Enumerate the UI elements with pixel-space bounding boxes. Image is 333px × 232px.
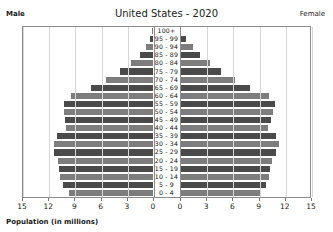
age-group-label: 30 - 34 <box>153 141 180 147</box>
pyramid-row: 0 - 4 <box>23 189 310 197</box>
pyramid-row: 15 - 19 <box>23 165 310 173</box>
pyramid-row: 75 - 79 <box>23 67 310 75</box>
x-tick-label: 6 <box>98 202 103 211</box>
gridline <box>207 27 208 197</box>
male-bar <box>63 182 153 188</box>
age-group-label: 75 - 79 <box>153 68 180 74</box>
male-bar <box>65 117 153 123</box>
pyramid-row: 60 - 64 <box>23 92 310 100</box>
age-group-label-cell: 70 - 74 <box>153 76 180 84</box>
male-bar <box>54 141 154 147</box>
gridline <box>23 27 24 197</box>
male-bar <box>69 190 153 196</box>
age-group-label: 5 - 9 <box>153 182 180 188</box>
male-bar <box>131 60 153 66</box>
female-bar <box>180 117 271 123</box>
female-bar <box>180 68 221 74</box>
pyramid-row: 45 - 49 <box>23 116 310 124</box>
male-bar <box>54 149 153 155</box>
age-group-label-cell: 25 - 29 <box>153 148 180 156</box>
x-tick-label: 0 <box>151 202 156 211</box>
male-bar <box>140 52 154 58</box>
gridline <box>128 27 129 197</box>
age-group-label: 20 - 24 <box>153 157 180 163</box>
x-tick-label: 3 <box>204 202 209 211</box>
gridline <box>286 27 287 197</box>
age-group-label: 100+ <box>153 28 180 34</box>
male-bar <box>64 101 153 107</box>
age-group-label-cell: 15 - 19 <box>153 165 180 173</box>
male-bar <box>106 77 154 83</box>
pyramid-row: 80 - 84 <box>23 59 310 67</box>
pyramid-row: 50 - 54 <box>23 108 310 116</box>
age-group-label-cell: 60 - 64 <box>153 92 180 100</box>
tick-mark <box>153 198 154 201</box>
plot-area: 100+95 - 9990 - 9485 - 8980 - 8475 - 797… <box>22 26 311 198</box>
tick-mark <box>232 198 233 201</box>
female-bar <box>180 141 279 147</box>
age-group-label: 85 - 89 <box>153 52 180 58</box>
female-bar <box>180 125 268 131</box>
female-bar <box>180 190 260 196</box>
tick-mark <box>259 198 260 201</box>
pyramid-row: 30 - 34 <box>23 140 310 148</box>
age-group-label: 60 - 64 <box>153 93 180 99</box>
x-tick-label: 9 <box>256 202 261 211</box>
tick-mark <box>48 198 49 201</box>
pyramid-row: 35 - 39 <box>23 132 310 140</box>
age-group-label: 40 - 44 <box>153 125 180 131</box>
pyramid-row: 40 - 44 <box>23 124 310 132</box>
female-bar <box>180 44 193 50</box>
age-group-label-cell: 90 - 94 <box>153 43 180 51</box>
tick-mark <box>180 198 181 201</box>
age-group-label: 15 - 19 <box>153 166 180 172</box>
pyramid-row: 70 - 74 <box>23 76 310 84</box>
age-group-label: 0 - 4 <box>153 190 180 196</box>
tick-mark <box>101 198 102 201</box>
x-tick-label: 15 <box>306 202 316 211</box>
gridline <box>233 27 234 197</box>
age-group-label-cell: 35 - 39 <box>153 132 180 140</box>
tick-mark <box>285 198 286 201</box>
age-group-label-cell: 40 - 44 <box>153 124 180 132</box>
pyramid-row: 90 - 94 <box>23 43 310 51</box>
x-tick-label: 12 <box>280 202 290 211</box>
age-group-label: 50 - 54 <box>153 109 180 115</box>
age-group-label-cell: 100+ <box>153 27 180 35</box>
female-bar <box>180 60 210 66</box>
female-bar <box>180 85 250 91</box>
male-bar <box>66 125 153 131</box>
age-group-label-cell: 0 - 4 <box>153 189 180 197</box>
male-bar <box>64 109 153 115</box>
x-tick-label: 6 <box>230 202 235 211</box>
age-group-label-cell: 75 - 79 <box>153 67 180 75</box>
pyramid-row: 25 - 29 <box>23 148 310 156</box>
pyramid-row: 65 - 69 <box>23 84 310 92</box>
age-group-label: 90 - 94 <box>153 44 180 50</box>
age-group-label: 80 - 84 <box>153 60 180 66</box>
female-bar <box>180 93 269 99</box>
pyramid-row: 85 - 89 <box>23 51 310 59</box>
age-group-label-cell: 65 - 69 <box>153 84 180 92</box>
male-bar <box>120 68 153 74</box>
tick-mark <box>74 198 75 201</box>
age-group-label-cell: 30 - 34 <box>153 140 180 148</box>
x-tick-label: 12 <box>43 202 53 211</box>
female-bar <box>180 174 270 180</box>
pyramid-row: 100+ <box>23 27 310 35</box>
age-group-label: 65 - 69 <box>153 85 180 91</box>
age-group-label-cell: 10 - 14 <box>153 173 180 181</box>
x-tick-label: 3 <box>124 202 129 211</box>
male-bar <box>59 166 153 172</box>
age-group-label-cell: 95 - 99 <box>153 35 180 43</box>
pyramid-row: 10 - 14 <box>23 173 310 181</box>
age-group-label: 35 - 39 <box>153 133 180 139</box>
pyramid-row: 5 - 9 <box>23 181 310 189</box>
bar-rows: 100+95 - 9990 - 9485 - 8980 - 8475 - 797… <box>23 27 310 197</box>
female-bar <box>180 101 275 107</box>
chart-title: United States - 2020 <box>0 8 333 19</box>
gridline <box>102 27 103 197</box>
gridline <box>312 27 313 197</box>
female-bar <box>180 149 276 155</box>
x-axis-caption: Population (in millions) <box>6 218 98 226</box>
